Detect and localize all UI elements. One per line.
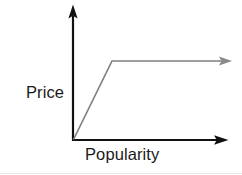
price-response-line — [74, 61, 222, 140]
y-axis-label: Price — [26, 84, 64, 101]
chart-figure: Price Popularity — [0, 0, 242, 175]
x-axis-label: Popularity — [85, 146, 159, 163]
bottom-edge-divider — [0, 173, 242, 174]
